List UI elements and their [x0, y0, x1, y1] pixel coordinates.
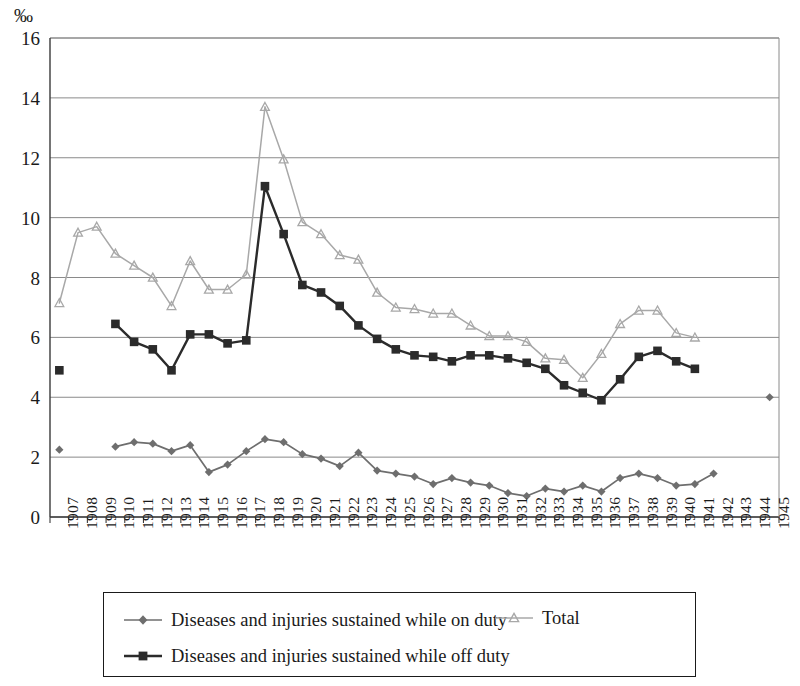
x-tick-label: 1923 [364, 497, 380, 529]
x-tick-label: 1917 [252, 497, 268, 529]
x-tick-label: 1915 [215, 497, 231, 529]
chart-page: ‰ 0246810121416 190719081909191019111912… [0, 0, 800, 686]
x-tick-label: 1942 [720, 497, 736, 529]
x-tick-label: 1938 [645, 497, 661, 529]
x-tick-label: 1907 [65, 497, 81, 529]
x-tick-label: 1921 [327, 497, 343, 529]
x-tick-label: 1910 [121, 497, 137, 529]
x-tick-label: 1914 [196, 497, 212, 529]
legend-item-off-duty: Diseases and injuries sustained while of… [122, 645, 510, 667]
square-marker-icon [122, 648, 164, 664]
y-tick-label: 14 [2, 89, 40, 108]
x-tick-label: 1931 [514, 497, 530, 529]
gridlines [50, 38, 779, 517]
chart-plot-area: 0246810121416 19071908190919101911191219… [0, 0, 800, 600]
x-tick-label: 1934 [570, 497, 586, 529]
y-tick-label: 8 [2, 269, 40, 288]
x-tick-label: 1943 [738, 497, 754, 529]
x-tick-label: 1918 [271, 497, 287, 529]
y-tick-label: 0 [2, 508, 40, 527]
x-tick-label: 1932 [533, 497, 549, 529]
legend-label-on-duty: Diseases and injuries sustained while on… [171, 611, 507, 630]
x-tick-label: 1944 [757, 497, 773, 529]
y-tick-label: 10 [2, 209, 40, 228]
y-tick-label: 4 [2, 388, 40, 407]
x-tick-label: 1908 [84, 497, 100, 529]
legend-label-total: Total [542, 609, 580, 628]
x-tick-label: 1919 [290, 497, 306, 529]
x-tick-label: 1909 [103, 497, 119, 529]
x-tick-label: 1927 [439, 497, 455, 529]
series-diamond [55, 393, 774, 500]
x-tick-label: 1924 [383, 497, 399, 529]
chart-legend: Diseases and injuries sustained while on… [103, 592, 696, 677]
x-tick-label: 1912 [159, 497, 175, 529]
diamond-marker-icon [122, 612, 164, 628]
x-tick-label: 1928 [458, 497, 474, 529]
x-tick-label: 1945 [776, 497, 792, 529]
x-tick-label: 1937 [626, 497, 642, 529]
x-tick-label: 1941 [701, 497, 717, 529]
legend-item-total: Total [493, 607, 580, 629]
y-tick-label: 12 [2, 149, 40, 168]
x-tick-label: 1929 [477, 497, 493, 529]
x-tick-label: 1933 [551, 497, 567, 529]
data-series-layer [55, 102, 774, 500]
x-tick-label: 1930 [495, 497, 511, 529]
x-tick-label: 1926 [421, 497, 437, 529]
y-tick-label: 2 [2, 448, 40, 467]
x-tick-label: 1916 [234, 497, 250, 529]
triangle-marker-icon [493, 610, 535, 626]
x-tick-label: 1935 [589, 497, 605, 529]
x-tick-label: 1939 [664, 497, 680, 529]
x-tick-label: 1925 [402, 497, 418, 529]
x-tick-label: 1936 [607, 497, 623, 529]
legend-item-on-duty: Diseases and injuries sustained while on… [122, 609, 507, 631]
y-tick-label: 16 [2, 29, 40, 48]
x-tick-label: 1913 [178, 497, 194, 529]
x-tick-label: 1940 [682, 497, 698, 529]
y-tick-label: 6 [2, 328, 40, 347]
x-tick-label: 1911 [140, 497, 156, 529]
x-tick-label: 1922 [346, 497, 362, 529]
x-tick-label: 1920 [308, 497, 324, 529]
legend-label-off-duty: Diseases and injuries sustained while of… [171, 647, 510, 666]
